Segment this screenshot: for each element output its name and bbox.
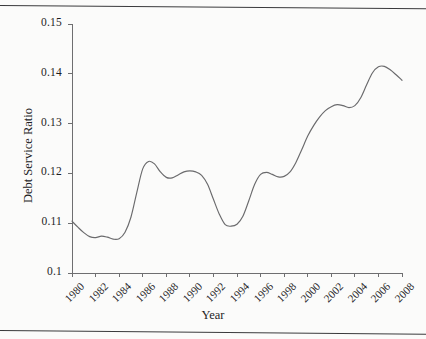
data-series-line (72, 66, 402, 239)
y-tick-label: 0.1 (22, 265, 62, 277)
page-rule-bottom (0, 330, 426, 335)
x-axis-ticks (72, 273, 402, 277)
y-axis-ticks (68, 24, 72, 273)
figure-page: 0.150.140.130.120.110.1 1980198219841986… (0, 0, 426, 339)
y-axis-title: Debt Service Ratio (21, 76, 36, 236)
y-tick-label: 0.15 (22, 16, 62, 28)
line-chart: 0.150.140.130.120.110.1 1980198219841986… (0, 0, 426, 330)
x-axis-title: Year (0, 308, 426, 323)
axes (72, 24, 402, 273)
